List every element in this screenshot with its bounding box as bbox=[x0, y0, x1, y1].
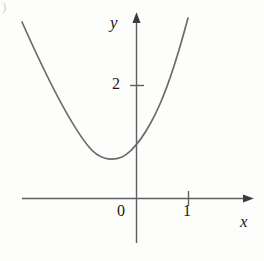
parabola-curve bbox=[22, 18, 188, 159]
x-tick-label-1: 1 bbox=[183, 203, 191, 219]
origin-label: 0 bbox=[117, 203, 125, 219]
y-tick-label-2: 2 bbox=[112, 76, 120, 92]
figure-root: ) y x 2 0 1 bbox=[0, 0, 264, 261]
graph-canvas bbox=[0, 0, 264, 261]
x-axis-label: x bbox=[240, 213, 248, 230]
y-axis-label: y bbox=[110, 14, 118, 31]
